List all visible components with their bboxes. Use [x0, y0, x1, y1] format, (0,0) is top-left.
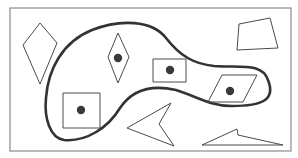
rectangle-dot [166, 66, 174, 74]
arrowhead-shape [127, 103, 174, 146]
wedge-shape [202, 129, 283, 145]
parallelogram-dot [226, 87, 234, 95]
inside-shapes [63, 33, 257, 128]
diamond-dot [114, 54, 122, 62]
quadrilateral-shape [237, 18, 278, 50]
square-dot [77, 106, 85, 114]
diagram-canvas [0, 0, 298, 158]
